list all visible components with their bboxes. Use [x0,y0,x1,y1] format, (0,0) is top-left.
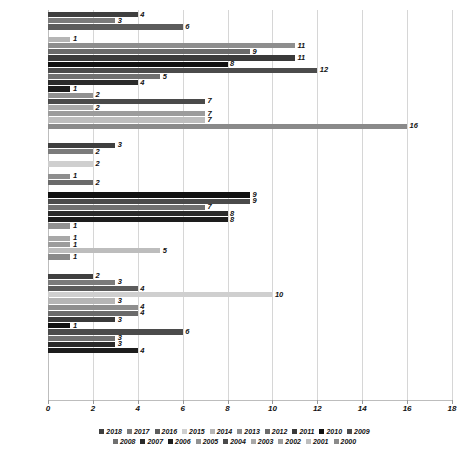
bar-row: 8 [48,217,452,222]
bar-bolívar-2013[interactable] [48,305,138,310]
bar-córdoba-2013[interactable] [48,43,295,48]
bar-bolívar-2008[interactable] [48,336,115,341]
x-tick-label-10: 10 [268,404,277,413]
legend-swatch-icon [265,429,270,434]
bar-córdoba-2002[interactable] [48,111,205,116]
x-tick-label-16: 16 [403,404,412,413]
bar-cesar-2000[interactable] [48,254,70,259]
bar-cesar-2015[interactable] [48,161,93,166]
bar-row: 3 [48,317,452,322]
legend-label: 2002 [285,438,301,445]
bar-córdoba-2011[interactable] [48,55,295,60]
bar-row: 1 [48,223,452,228]
legend-item-2010[interactable]: 2010 [319,428,342,435]
bar-cesar-2008[interactable] [48,205,205,210]
bar-córdoba-2017[interactable] [48,18,115,23]
bar-córdoba-2006[interactable] [48,86,70,91]
bar-value-label: 16 [407,122,418,130]
bar-córdoba-2001[interactable] [48,117,205,122]
legend-swatch-icon [306,439,311,444]
legend-swatch-icon [140,439,145,444]
bar-bolívar-2017[interactable] [48,280,115,285]
bar-bolívar-2018[interactable] [48,274,93,279]
bar-row: 6 [48,329,452,334]
x-tick-label-12: 12 [313,404,322,413]
bar-row: 6 [48,24,452,29]
legend-item-2006[interactable]: 2006 [168,438,191,445]
bar-bolívar-2006[interactable] [48,348,138,353]
bar-córdoba-2016[interactable] [48,24,183,29]
bar-row [48,31,452,36]
bar-córdoba-2007[interactable] [48,80,138,85]
bar-row [48,373,452,378]
bar-bolívar-2012[interactable] [48,311,138,316]
legend-item-2001[interactable]: 2001 [306,438,329,445]
bar-row: 4 [48,80,452,85]
bar-córdoba-2018[interactable] [48,12,138,17]
bar-córdoba-2010[interactable] [48,62,228,67]
bar-row [48,367,452,372]
legend-item-2005[interactable]: 2005 [196,438,219,445]
bar-cesar-2002[interactable] [48,242,70,247]
bar-córdoba-2003[interactable] [48,105,93,110]
bar-bolívar-2016[interactable] [48,286,138,291]
bar-cesar-2012[interactable] [48,180,93,185]
legend-label: 2000 [341,438,357,445]
bar-córdoba-2014[interactable] [48,37,70,42]
legend-label: 2012 [272,428,288,435]
bar-bolívar-2011[interactable] [48,317,115,322]
bar-bolívar-2007[interactable] [48,342,115,347]
bar-row: 9 [48,49,452,54]
plot-area: 4361119118125412727716CÓRDOBA32212997881… [48,10,452,400]
legend-item-2017[interactable]: 2017 [127,428,150,435]
legend-label: 2016 [162,428,178,435]
legend-item-2013[interactable]: 2013 [237,428,260,435]
legend-item-2009[interactable]: 2009 [347,428,370,435]
bar-row: 10 [48,292,452,297]
bar-cesar-2005[interactable] [48,223,70,228]
legend-item-2002[interactable]: 2002 [278,438,301,445]
bar-cesar-2010[interactable] [48,192,250,197]
gridline-18 [452,10,453,400]
legend-swatch-icon [113,439,118,444]
bar-row: 8 [48,211,452,216]
bar-row: 7 [48,117,452,122]
legend-item-2012[interactable]: 2012 [265,428,288,435]
bar-cesar-2009[interactable] [48,199,250,204]
bar-bolívar-2014[interactable] [48,298,115,303]
bar-group: 4361119118125412727716CÓRDOBA [48,12,452,130]
bar-córdoba-2005[interactable] [48,93,93,98]
bar-row: 4 [48,348,452,353]
bar-row: 7 [48,205,452,210]
bar-cesar-2007[interactable] [48,211,228,216]
bar-bolívar-2015[interactable] [48,292,272,297]
bar-cesar-2001[interactable] [48,248,160,253]
bar-córdoba-2012[interactable] [48,49,250,54]
legend-label: 2010 [326,428,342,435]
bar-cesar-2003[interactable] [48,236,70,241]
x-tick-label-6: 6 [180,404,184,413]
legend-item-2011[interactable]: 2011 [292,428,314,435]
bar-row: 4 [48,311,452,316]
bar-row: 1 [48,236,452,241]
legend-item-2016[interactable]: 2016 [155,428,178,435]
legend-item-2015[interactable]: 2015 [182,428,205,435]
legend-item-2008[interactable]: 2008 [113,438,136,445]
legend-item-2014[interactable]: 2014 [210,428,233,435]
bar-cesar-2018[interactable] [48,143,115,148]
legend-item-2007[interactable]: 2007 [140,438,163,445]
bar-row: 3 [48,280,452,285]
x-tick-label-0: 0 [46,404,50,413]
legend-label: 2015 [189,428,205,435]
bar-córdoba-2004[interactable] [48,99,205,104]
legend-item-2000[interactable]: 2000 [334,438,357,445]
legend-item-2018[interactable]: 2018 [99,428,122,435]
bar-cesar-2013[interactable] [48,174,70,179]
bar-cesar-2017[interactable] [48,149,93,154]
legend-item-2003[interactable]: 2003 [251,438,274,445]
legend-item-2004[interactable]: 2004 [223,438,246,445]
bar-row: 5 [48,74,452,79]
bar-córdoba-2000[interactable] [48,124,407,129]
bar-córdoba-2009[interactable] [48,68,317,73]
bar-bolívar-2010[interactable] [48,323,70,328]
